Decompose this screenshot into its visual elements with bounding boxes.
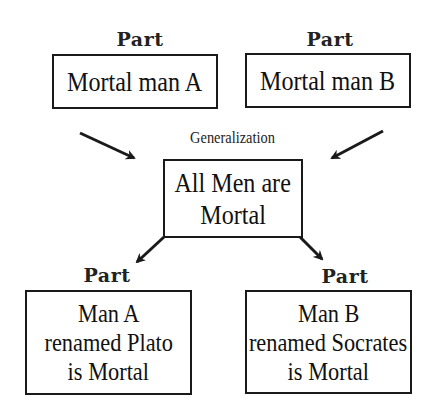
- bottom-left-line-2: renamed Plato: [44, 328, 173, 357]
- box-mortal-man-a: Mortal man A: [52, 54, 218, 109]
- bottom-right-line-1: Man B: [298, 299, 359, 328]
- arrow-center-to-bottomright: [300, 237, 322, 259]
- box-all-men-mortal: All Men are Mortal: [163, 159, 303, 238]
- center-line-1: All Men are: [175, 167, 291, 199]
- part-label-top-right: Part: [285, 28, 375, 50]
- generalization-label: Generalization: [167, 129, 298, 147]
- part-label-top-left: Part: [95, 28, 185, 50]
- bottom-right-line-2: renamed Socrates: [249, 328, 407, 357]
- bottom-left-line-1: Man A: [78, 299, 139, 328]
- bottom-left-line-3: is Mortal: [68, 357, 149, 386]
- box-man-a-plato: Man A renamed Plato is Mortal: [25, 290, 192, 395]
- arrow-topright-to-center: [332, 131, 383, 158]
- box-mortal-man-b-text: Mortal man B: [260, 66, 395, 95]
- box-mortal-man-b: Mortal man B: [245, 53, 411, 108]
- box-mortal-man-a-text: Mortal man A: [67, 67, 202, 96]
- arrow-center-to-bottomleft: [137, 237, 164, 262]
- part-label-bottom-right: Part: [300, 265, 390, 287]
- bottom-right-line-3: is Mortal: [288, 357, 369, 386]
- part-label-bottom-left: Part: [62, 264, 152, 286]
- center-line-2: Mortal: [200, 199, 266, 231]
- arrow-topleft-to-center: [80, 133, 134, 158]
- box-man-b-socrates: Man B renamed Socrates is Mortal: [245, 290, 412, 394]
